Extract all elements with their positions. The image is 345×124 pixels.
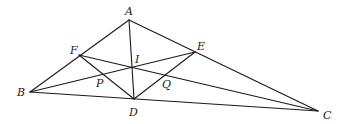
label-point-a: A (124, 5, 133, 18)
label-point-p: P (95, 77, 104, 90)
point-labels: ABCDEFIPQ (16, 5, 332, 122)
segment-ac (129, 20, 318, 111)
label-point-q: Q (162, 78, 171, 91)
label-point-b: B (16, 86, 25, 99)
label-point-i: I (134, 53, 140, 66)
segment-ad (129, 20, 134, 99)
label-point-d: D (128, 106, 138, 119)
segment-bc (30, 92, 318, 111)
segments (30, 20, 318, 111)
label-point-e: E (196, 40, 205, 53)
label-point-c: C (323, 109, 332, 122)
triangle-diagram: ABCDEFIPQ (0, 0, 345, 124)
label-point-f: F (69, 44, 78, 57)
